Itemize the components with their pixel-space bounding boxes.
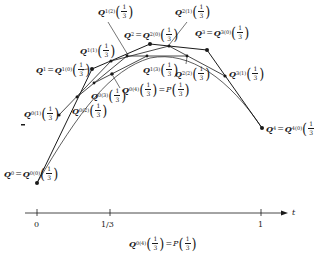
label-q2-1: Q2(1) (13) (175, 4, 210, 19)
label-q2-2: Q2(2) (13) (175, 66, 210, 81)
label-q0: Q0=Q0(0) (13) (4, 166, 58, 181)
tick-label-one-third: 1/3 (101, 220, 114, 229)
tick-label-1: 1 (258, 220, 263, 229)
label-q0-2: Q0(2) (13) (72, 103, 107, 118)
caption-formula: Q0(4) (13) =P (13) (129, 236, 197, 251)
label-q3: Q3=Q3(0) (13) (195, 25, 249, 40)
label-q3-1: Q3(1) (13) (229, 66, 264, 81)
label-q1-1: Q1(1) (13) (80, 43, 115, 58)
stray-mark (21, 124, 25, 126)
label-q1: Q1=Q1(0) (13) (36, 62, 90, 77)
axis-variable-t: t (292, 208, 295, 217)
label-q1-2-right: Q1(3) (13) (143, 62, 178, 77)
level3-segment (94, 56, 147, 83)
label-q1-2: Q1(2) (13) (98, 4, 133, 19)
label-q4: Q4=Q4(0) (13) (266, 121, 314, 136)
tick-label-0: 0 (34, 220, 39, 229)
label-q0-1: Q0(1) (13) (24, 106, 59, 121)
label-q0-4-equals-p: Q0(4) (13) =P (13) (122, 82, 190, 97)
t-axis-arrow (281, 211, 288, 216)
label-q2: Q2=Q2(0) (13) (124, 27, 178, 42)
